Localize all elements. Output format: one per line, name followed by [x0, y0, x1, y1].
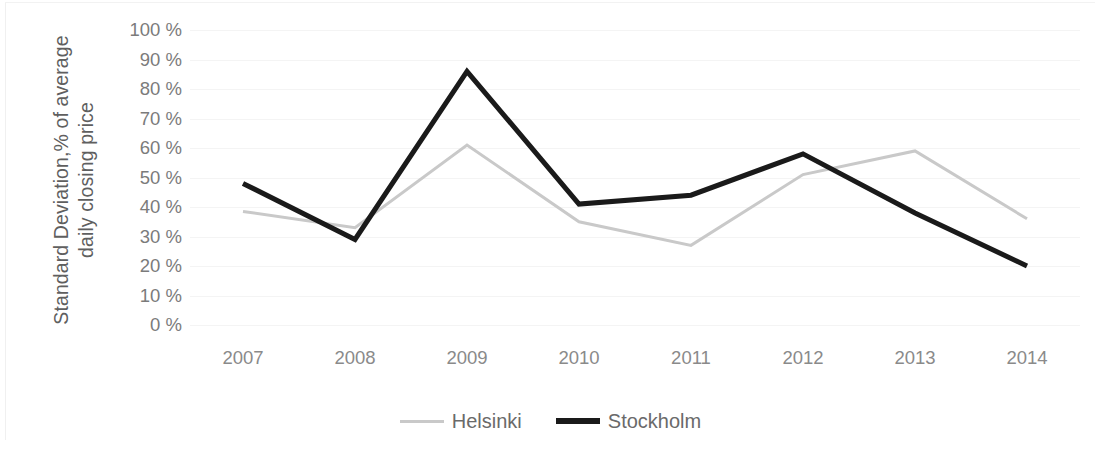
legend-item-helsinki[interactable]: Helsinki — [400, 410, 522, 432]
x-axis-tick-label: 2010 — [558, 348, 599, 368]
line-chart: Standard Deviation,% of average daily cl… — [0, 0, 1101, 459]
series-lines — [190, 0, 1080, 459]
stockholm-line-swatch — [556, 418, 600, 424]
series-line-stockholm — [243, 71, 1027, 266]
y-axis-tick-label: 50 % — [140, 169, 182, 188]
y-axis-tick-labels: 100 %90 %80 %70 %60 %50 %40 %30 %20 %10 … — [104, 0, 182, 459]
x-axis-tick-label: 2011 — [671, 348, 711, 368]
y-axis-tick-label: 20 % — [140, 257, 182, 276]
y-axis-tick-label: 10 % — [140, 287, 182, 306]
legend-item-label: Stockholm — [608, 410, 701, 432]
x-axis-tick-label: 2013 — [894, 348, 935, 368]
y-axis-title-line-2: daily closing price — [74, 15, 99, 345]
chart-legend: HelsinkiStockholm — [0, 410, 1101, 432]
helsinki-line-swatch — [400, 420, 444, 423]
legend-item-label: Helsinki — [452, 410, 522, 432]
y-axis-tick-label: 60 % — [140, 139, 182, 158]
x-axis-tick-label: 2007 — [222, 348, 263, 368]
y-axis-title: Standard Deviation,% of average daily cl… — [49, 15, 89, 345]
y-axis-tick-label: 40 % — [140, 198, 182, 217]
plot-area — [190, 0, 1080, 459]
y-axis-title-line-1: Standard Deviation,% of average — [50, 35, 72, 324]
x-axis-tick-label: 2014 — [1006, 348, 1047, 368]
x-axis-tick-label: 2009 — [446, 348, 487, 368]
y-axis-tick-label: 80 % — [140, 80, 182, 99]
x-axis-tick-label: 2012 — [782, 348, 823, 368]
y-axis-tick-label: 90 % — [140, 51, 182, 70]
x-axis-tick-label: 2008 — [334, 348, 375, 368]
y-axis-tick-label: 30 % — [140, 228, 182, 247]
legend-item-stockholm[interactable]: Stockholm — [556, 410, 701, 432]
y-axis-tick-label: 100 % — [130, 21, 182, 40]
x-axis-tick-labels: 20072008200920102011201220132014 — [0, 348, 1101, 378]
y-axis-tick-label: 70 % — [140, 110, 182, 129]
y-axis-tick-label: 0 % — [150, 316, 182, 335]
